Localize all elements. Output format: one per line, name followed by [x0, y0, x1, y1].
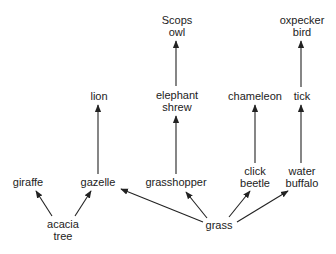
food-web-diagram: Scops owl oxpecker bird lion elephant sh…	[0, 0, 336, 254]
label-line: lion	[90, 90, 107, 102]
label-line: chameleon	[228, 90, 282, 102]
arrow-grass-to-gazelle	[121, 189, 203, 222]
label-line: acacia	[47, 218, 79, 230]
node-water-buffalo: water buffalo	[286, 165, 319, 189]
label-line: grass	[206, 219, 233, 231]
node-elephant-shrew: elephant shrew	[156, 89, 198, 113]
label-line: grasshopper	[145, 176, 206, 188]
label-line: tree	[47, 230, 79, 242]
arrow-acacia-tree-to-gazelle	[75, 191, 91, 216]
node-grass: grass	[206, 219, 233, 231]
node-scops-owl: Scops owl	[162, 14, 193, 38]
label-line: oxpecker	[280, 14, 325, 26]
label-line: Scops	[162, 14, 193, 26]
node-click-beetle: click beetle	[240, 165, 270, 189]
label-line: buffalo	[286, 177, 319, 189]
label-line: beetle	[240, 177, 270, 189]
node-acacia-tree: acacia tree	[47, 218, 79, 242]
arrow-grass-to-click-beetle	[229, 191, 250, 217]
node-chameleon: chameleon	[228, 90, 282, 102]
node-oxpecker-bird: oxpecker bird	[280, 14, 325, 38]
label-line: water	[286, 165, 319, 177]
label-line: bird	[280, 26, 325, 38]
label-line: click	[240, 165, 270, 177]
label-line: shrew	[156, 101, 198, 113]
label-line: tick	[294, 90, 311, 102]
arrow-grass-to-water-buffalo	[237, 191, 288, 222]
arrow-acacia-tree-to-giraffe	[36, 191, 52, 216]
label-line: elephant	[156, 89, 198, 101]
label-line: owl	[162, 26, 193, 38]
node-tick: tick	[294, 90, 311, 102]
node-grasshopper: grasshopper	[145, 176, 206, 188]
label-line: giraffe	[13, 176, 43, 188]
node-giraffe: giraffe	[13, 176, 43, 188]
arrow-grass-to-grasshopper	[186, 192, 207, 218]
node-gazelle: gazelle	[81, 176, 116, 188]
label-line: gazelle	[81, 176, 116, 188]
node-lion: lion	[90, 90, 107, 102]
arrows-layer	[0, 0, 336, 254]
